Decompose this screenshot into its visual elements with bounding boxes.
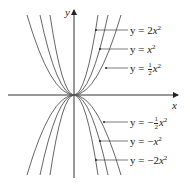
x-axis-label: x [172, 99, 177, 111]
label-half-x2: y = 12x2 [130, 62, 161, 77]
label-neg-2x2: y = −2x2 [130, 154, 167, 166]
label-x2: y = x2 [130, 43, 156, 55]
label-neg-half-x2: y = −12x2 [130, 116, 167, 131]
label-neg-x2: y = −x2 [130, 135, 162, 147]
y-axis-label: y [65, 6, 70, 18]
label-2x2: y = 2x2 [130, 24, 161, 36]
